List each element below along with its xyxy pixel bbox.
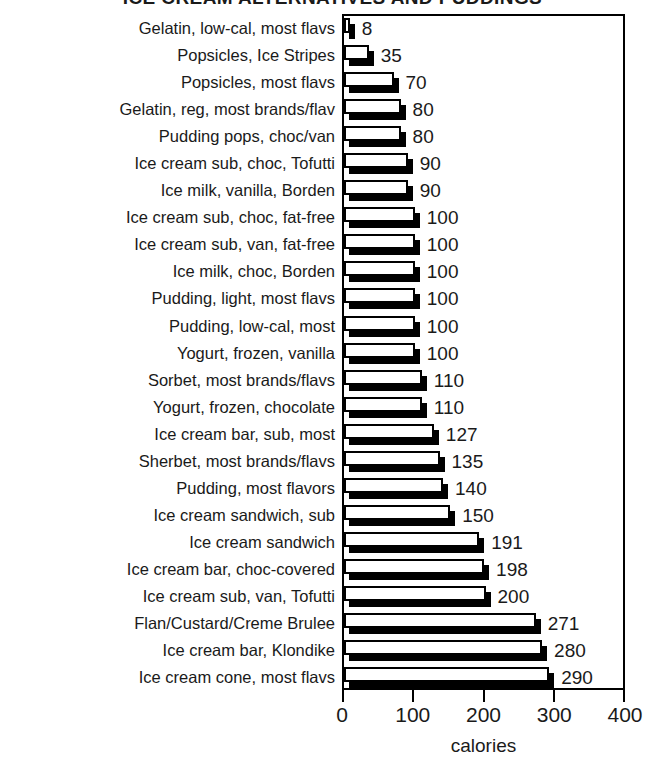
category-label: Pudding pops, choc/van — [159, 128, 335, 145]
bar-value-label: 8 — [362, 19, 373, 38]
bar-value-label: 198 — [496, 559, 528, 578]
bar-row: Ice cream cone, most flavs290 — [0, 663, 665, 691]
chart-title: ICE CREAM ALTERNATIVES AND PUDDINGS — [0, 0, 665, 9]
bar — [344, 316, 421, 336]
bar-value-label: 100 — [427, 262, 459, 281]
bar-face — [344, 126, 401, 141]
x-axis-tick-label: 100 — [395, 704, 430, 725]
category-label: Pudding, low-cal, most — [169, 317, 335, 334]
bar — [344, 288, 421, 308]
bar-row: Popsicles, Ice Stripes35 — [0, 41, 665, 69]
bar-value-label: 140 — [455, 478, 487, 497]
bar — [344, 261, 421, 281]
bar-row: Flan/Custard/Creme Brulee271 — [0, 609, 665, 637]
bar-face — [344, 370, 422, 385]
category-label: Ice cream cone, most flavs — [139, 669, 335, 686]
bar-row: Gelatin, low-cal, most flavs8 — [0, 14, 665, 42]
bar-face — [344, 288, 415, 303]
bar-value-label: 90 — [420, 181, 441, 200]
bar-value-label: 100 — [427, 208, 459, 227]
category-label: Ice cream bar, Klondike — [163, 642, 335, 659]
x-axis: calories 0100200300400 — [342, 690, 625, 770]
bar-face — [344, 343, 415, 358]
bar-row: Ice cream bar, sub, most127 — [0, 420, 665, 448]
x-axis-tick — [553, 690, 555, 702]
category-label: Ice cream sub, van, fat-free — [134, 236, 335, 253]
x-axis-tick — [623, 690, 625, 702]
category-label: Ice cream bar, choc-covered — [127, 561, 335, 578]
bar — [344, 478, 449, 498]
bar — [344, 207, 421, 227]
bar — [344, 18, 356, 38]
bar-row: Ice cream sub, choc, fat-free100 — [0, 203, 665, 231]
bar-value-label: 200 — [498, 586, 530, 605]
bar-face — [344, 18, 350, 33]
bar-row: Sherbet, most brands/flavs135 — [0, 447, 665, 475]
bar-row: Yogurt, frozen, chocolate110 — [0, 393, 665, 421]
bar — [344, 153, 414, 173]
bar-row: Ice cream sandwich191 — [0, 528, 665, 556]
bar — [344, 180, 414, 200]
bar-row: Pudding, most flavors140 — [0, 474, 665, 502]
category-label: Yogurt, frozen, chocolate — [153, 398, 335, 415]
bar — [344, 586, 492, 606]
bar — [344, 532, 485, 552]
bar-value-label: 100 — [427, 316, 459, 335]
category-label: Popsicles, Ice Stripes — [177, 47, 335, 64]
bar-value-label: 191 — [491, 532, 523, 551]
bar-face — [344, 559, 484, 574]
category-label: Yogurt, frozen, vanilla — [177, 344, 335, 361]
bar-face — [344, 261, 415, 276]
bar-value-label: 110 — [434, 397, 464, 416]
bar-value-label: 100 — [427, 343, 459, 362]
category-label: Ice cream bar, sub, most — [154, 425, 335, 442]
bar — [344, 397, 428, 417]
bar-face — [344, 207, 415, 222]
bar-row: Gelatin, reg, most brands/flav80 — [0, 95, 665, 123]
category-label: Sherbet, most brands/flavs — [139, 452, 335, 469]
bar-row: Pudding pops, choc/van80 — [0, 122, 665, 150]
bar — [344, 72, 400, 92]
bar-value-label: 35 — [381, 46, 402, 65]
bar-face — [344, 45, 369, 60]
bar — [344, 559, 490, 579]
category-label: Popsicles, most flavs — [181, 74, 335, 91]
x-axis-tick-label: 300 — [537, 704, 572, 725]
bar — [344, 424, 440, 444]
bar-face — [344, 153, 408, 168]
category-label: Sorbet, most brands/flavs — [148, 371, 335, 388]
bar — [344, 234, 421, 254]
bar-face — [344, 99, 401, 114]
bar — [344, 343, 421, 363]
bar-row: Pudding, low-cal, most100 — [0, 311, 665, 339]
bar — [344, 45, 375, 65]
bar-face — [344, 397, 422, 412]
bar — [344, 505, 456, 525]
bar-face — [344, 424, 434, 439]
bar-value-label: 70 — [406, 73, 427, 92]
x-axis-tick-label: 200 — [466, 704, 501, 725]
bar-value-label: 100 — [427, 289, 459, 308]
category-label: Ice cream sub, choc, fat-free — [126, 209, 335, 226]
bar-value-label: 80 — [413, 100, 434, 119]
category-label: Gelatin, low-cal, most flavs — [139, 20, 335, 37]
bar — [344, 99, 407, 119]
bar-face — [344, 667, 549, 682]
bar-value-label: 135 — [452, 451, 484, 470]
bar — [344, 126, 407, 146]
bar-value-label: 127 — [446, 424, 478, 443]
bar-row: Ice milk, choc, Borden100 — [0, 257, 665, 285]
bar — [344, 613, 542, 633]
bar-rows: Gelatin, low-cal, most flavs8Popsicles, … — [0, 14, 665, 690]
bar-row: Ice milk, vanilla, Borden90 — [0, 176, 665, 204]
bar — [344, 640, 548, 660]
bar-value-label: 100 — [427, 235, 459, 254]
bar-value-label: 271 — [548, 613, 580, 632]
bar-row: Ice cream sandwich, sub150 — [0, 501, 665, 529]
x-axis-tick — [483, 690, 485, 702]
bar-value-label: 80 — [413, 127, 434, 146]
category-label: Flan/Custard/Creme Brulee — [134, 615, 335, 632]
bar-face — [344, 640, 542, 655]
category-label: Ice cream sandwich, sub — [153, 507, 335, 524]
bar — [344, 451, 446, 471]
